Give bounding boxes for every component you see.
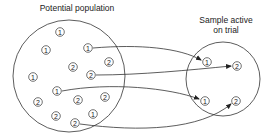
node-value: 2 [107,59,111,66]
node-value: 2 [235,63,239,70]
member-node-s2: 2 [233,62,242,71]
node-value: 1 [205,59,209,66]
member-node-p11: 2 [101,93,110,102]
member-node-p12: 2 [52,112,61,121]
node-value: 2 [54,113,58,120]
member-node-p5: 2 [69,63,78,72]
diagram-canvas: 11122211222212 1212 [0,0,271,140]
member-node-p7: 1 [29,73,38,82]
sample-boundary [186,42,260,116]
node-value: 1 [31,74,35,81]
member-node-p3: 1 [84,44,93,53]
member-node-p4: 2 [105,58,114,67]
node-value: 1 [86,45,90,52]
node-value: 2 [36,99,40,106]
member-node-s3: 1 [201,97,210,106]
member-node-p9: 2 [34,98,43,107]
node-value: 2 [234,98,238,105]
node-value: 1 [44,47,48,54]
member-node-p14: 2 [71,119,80,128]
node-value: 2 [103,94,107,101]
node-value: 2 [76,97,80,104]
node-value: 2 [89,72,93,79]
member-node-p13: 1 [89,110,98,119]
node-value: 2 [73,120,77,127]
member-node-s1: 1 [203,58,212,67]
member-node-p10: 2 [74,96,83,105]
node-value: 2 [71,64,75,71]
node-value: 1 [55,88,59,95]
member-node-p8: 1 [53,87,62,96]
member-node-p2: 1 [42,46,51,55]
arrow-p6-to-s2 [96,66,231,75]
arrow-p8-to-s3 [62,87,199,99]
arrow-p14-to-s4 [80,104,231,128]
member-node-p6: 2 [87,71,96,80]
population-set: 11122211222212 [13,20,125,132]
node-value: 1 [91,111,95,118]
member-node-s4: 2 [232,97,241,106]
member-node-p1: 1 [56,28,65,37]
node-value: 1 [203,98,207,105]
sample-set: 1212 [186,42,260,116]
node-value: 1 [58,29,62,36]
